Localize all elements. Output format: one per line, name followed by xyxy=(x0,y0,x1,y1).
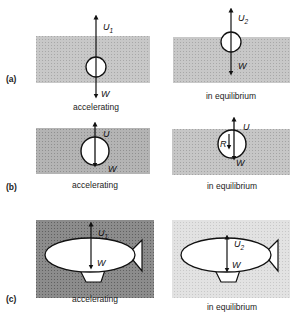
caption-accelerating: accelerating xyxy=(72,294,118,304)
panel-b-left-accelerating: U W accelerating xyxy=(36,124,150,190)
panel-c-right-equilibrium: U2 W in equilibrium xyxy=(172,220,290,312)
panel-c-left-accelerating: U1 W accelerating xyxy=(36,220,154,304)
caption-in-equilibrium: in equilibrium xyxy=(207,181,257,191)
panel-a: (a) U1 W accelerating U2 W in equilibriu… xyxy=(6,10,290,112)
upward-force-label: U xyxy=(243,122,250,132)
airship-envelope xyxy=(45,238,135,272)
upward-force-label: U xyxy=(103,129,110,139)
caption-accelerating: accelerating xyxy=(72,180,118,190)
panel-b: (b) U W accelerating U R W in equilibriu… xyxy=(6,119,290,192)
panel-label-c: (c) xyxy=(6,294,17,304)
buoyancy-force-diagram: (a) U1 W accelerating U2 W in equilibriu… xyxy=(0,0,299,317)
airship-envelope xyxy=(181,238,271,272)
upward-force-label: U1 xyxy=(103,22,114,34)
downward-force-label: W xyxy=(101,89,111,99)
resistance-force-label: R xyxy=(220,139,227,149)
panel-b-right-equilibrium: U R W in equilibrium xyxy=(172,119,290,191)
panel-label-a: (a) xyxy=(6,74,17,84)
panel-a-left-accelerating: U1 W accelerating xyxy=(36,17,150,112)
panel-a-right-equilibrium: U2 W in equilibrium xyxy=(173,10,290,101)
caption-accelerating: accelerating xyxy=(73,102,119,112)
caption-in-equilibrium: in equilibrium xyxy=(206,91,256,101)
panel-label-b: (b) xyxy=(6,182,17,192)
panel-c: (c) U1 W accelerating U2 W in equilibriu… xyxy=(6,220,290,312)
upward-force-label: U2 xyxy=(238,13,249,25)
caption-in-equilibrium: in equilibrium xyxy=(207,302,257,312)
